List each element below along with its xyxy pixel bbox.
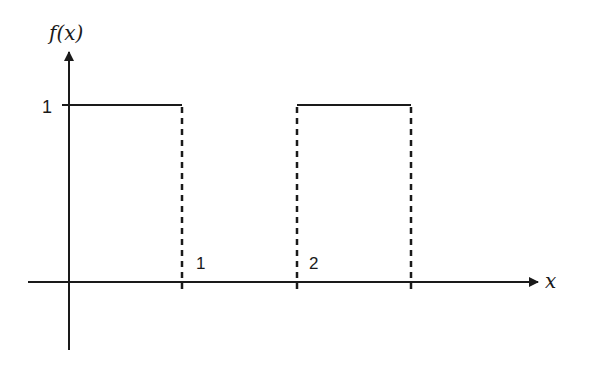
x-marker-label-2: 2 — [309, 254, 318, 273]
x-axis-label: x — [545, 269, 556, 293]
x-marker-label-1: 1 — [196, 254, 205, 273]
y-tick-label: 1 — [42, 97, 52, 117]
y-axis-label: f(x) — [47, 21, 83, 45]
pulse-function-diagram: f(x) x 1 1 2 — [0, 0, 595, 366]
